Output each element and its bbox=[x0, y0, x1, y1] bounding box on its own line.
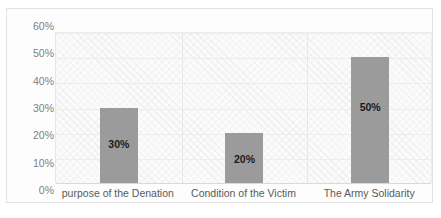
x-axis-category-label: The Army Solidarity bbox=[306, 186, 432, 200]
y-axis-tick-label: 0% bbox=[10, 185, 54, 196]
bar-value-label: 20% bbox=[225, 153, 263, 165]
bar-value-label: 30% bbox=[100, 138, 138, 150]
bar-slot: 20% bbox=[182, 33, 308, 183]
y-axis-tick-label: 60% bbox=[10, 21, 54, 32]
plot-area: 30% 20% 50% bbox=[55, 32, 432, 183]
y-axis-tick-label: 40% bbox=[10, 75, 54, 86]
bar-the-army-solidarity[interactable]: 50% bbox=[351, 57, 389, 183]
y-axis-tick-label: 20% bbox=[10, 130, 54, 141]
y-axis-tick-label: 30% bbox=[10, 103, 54, 114]
y-axis-tick-label: 50% bbox=[10, 48, 54, 59]
x-axis-category-label: purpose of the Denation bbox=[55, 186, 181, 200]
bar-chart: 0% 10% 20% 30% 40% 50% 60% 30% 20% bbox=[0, 0, 441, 218]
x-axis-category-label: Condition of the Victim bbox=[181, 186, 307, 200]
bar-purpose-of-the-denation[interactable]: 30% bbox=[100, 108, 138, 184]
bar-slot: 30% bbox=[56, 33, 182, 183]
x-axis: purpose of the Denation Condition of the… bbox=[55, 186, 432, 206]
y-axis: 0% 10% 20% 30% 40% 50% 60% bbox=[10, 26, 54, 190]
y-axis-tick-label: 10% bbox=[10, 157, 54, 168]
axis-baseline bbox=[56, 183, 431, 184]
bar-condition-of-the-victim[interactable]: 20% bbox=[225, 133, 263, 183]
bar-slot: 50% bbox=[307, 33, 433, 183]
bar-value-label: 50% bbox=[351, 101, 389, 113]
